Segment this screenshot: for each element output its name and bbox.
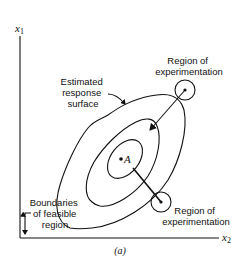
response-surface-diagram: x1 x2 A Estimated response surface Regio… [0,0,247,268]
estimated-surface-label: Estimated response surface [61,76,106,109]
middle-contour [86,119,159,206]
surface-leader [108,94,125,104]
x-axis-label: x2 [221,231,231,245]
y-axis-label: x1 [14,22,24,36]
region-top-label: Region of experimentation [155,55,223,77]
optimum-point [119,157,123,161]
upper-path-arrow [150,90,185,130]
region-bottom-label: Region of experimentation [162,205,230,227]
boundaries-leader [25,213,31,234]
boundaries-leader-left [21,214,25,216]
figure-caption: (a) [114,245,126,257]
lower-path-line [133,168,161,202]
boundaries-label: Boundaries of feasible region [30,197,81,230]
optimum-point-label: A [123,153,131,165]
